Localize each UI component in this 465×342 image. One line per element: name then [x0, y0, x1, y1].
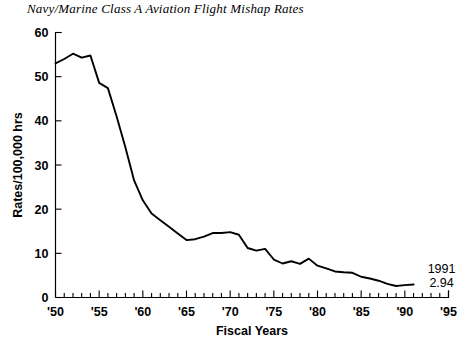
x-axis-title: Fiscal Years: [216, 324, 288, 338]
x-tick-label: '75: [265, 305, 282, 319]
mishap-rate-line: [56, 54, 414, 286]
x-tick-label: '65: [178, 305, 195, 319]
chart-page: Navy/Marine Class A Aviation Flight Mish…: [0, 0, 465, 342]
x-tick-label: '70: [222, 305, 239, 319]
y-tick-label: 30: [35, 159, 49, 173]
y-tick-label: 60: [35, 26, 49, 40]
x-tick-label: '60: [134, 305, 151, 319]
y-tick-label: 20: [35, 203, 49, 217]
x-tick-label: '80: [309, 305, 326, 319]
chart-plot: 0102030405060 '50'55'60'65'70'75'80'85'9…: [0, 0, 465, 342]
x-axis-line: [56, 291, 449, 298]
y-tick-label: 40: [35, 114, 49, 128]
x-tick-label: '55: [91, 305, 108, 319]
x-tick-label: '90: [396, 305, 413, 319]
x-tick-label: '95: [440, 305, 457, 319]
y-axis-tick-marks: [56, 33, 62, 298]
y-tick-label: 10: [35, 247, 49, 261]
x-axis-tick-marks: [56, 291, 449, 298]
x-tick-label: '50: [47, 305, 64, 319]
y-tick-label: 50: [35, 70, 49, 84]
x-axis-tick-labels: '50'55'60'65'70'75'80'85'90'95: [47, 305, 457, 319]
y-axis-title: Rates/100,000 hrs: [11, 112, 25, 218]
y-tick-label: 0: [42, 291, 49, 305]
y-axis-tick-labels: 0102030405060: [35, 26, 49, 305]
annotation-year: 1991: [428, 262, 456, 276]
x-tick-label: '85: [353, 305, 370, 319]
annotation-value: 2.94: [429, 276, 453, 290]
